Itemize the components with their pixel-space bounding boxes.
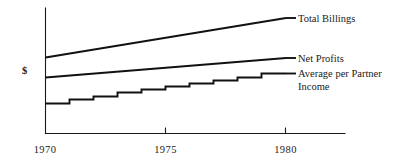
x-tick-label-1970: 1970	[34, 144, 57, 155]
x-tick-label-1975: 1975	[154, 144, 177, 155]
chart-figure: $ 1970 1975 1980 Total Billings Net Prof…	[0, 0, 396, 168]
series-label-total-billings: Total Billings	[298, 13, 355, 24]
y-axis-label: $	[22, 65, 27, 76]
series-label-average-per-partner-income-line2: Income	[298, 81, 330, 92]
chart-canvas: $ 1970 1975 1980 Total Billings Net Prof…	[0, 0, 396, 168]
series-label-average-per-partner-income-line1: Average per Partner	[298, 68, 382, 79]
x-tick-label-1980: 1980	[274, 144, 297, 155]
series-label-net-profits: Net Profits	[298, 53, 344, 64]
